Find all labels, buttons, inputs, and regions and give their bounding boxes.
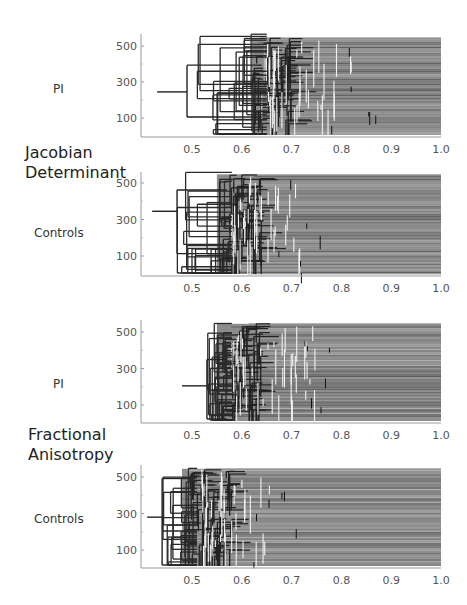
y-tick-label: 300 — [116, 363, 137, 376]
y-tick-label: 300 — [116, 214, 137, 227]
x-tick-label: 0.7 — [283, 574, 301, 587]
x-tick-label: 0.6 — [233, 282, 251, 295]
y-tick-label: 300 — [116, 76, 137, 89]
dendrogram-figure: 5003001000.50.60.70.80.91.05003001000.50… — [0, 0, 467, 605]
y-tick-label: 300 — [116, 508, 137, 521]
y-tick-label: 500 — [116, 471, 137, 484]
y-tick-label: 100 — [116, 399, 137, 412]
y-tick-label: 100 — [116, 250, 137, 263]
x-tick-label: 1.0 — [432, 282, 450, 295]
x-tick-label: 0.8 — [333, 282, 351, 295]
x-tick-label: 0.6 — [233, 429, 251, 442]
x-tick-label: 1.0 — [432, 429, 450, 442]
x-tick-label: 1.0 — [432, 574, 450, 587]
dendrogram-panel-0: 5003001000.50.60.70.80.91.0 — [116, 34, 450, 156]
x-tick-label: 1.0 — [432, 143, 450, 156]
x-tick-label: 0.7 — [283, 143, 301, 156]
x-tick-label: 0.9 — [382, 282, 400, 295]
x-tick-label: 0.7 — [283, 282, 301, 295]
x-tick-label: 0.5 — [183, 574, 201, 587]
dendrogram-panel-2: 5003001000.50.60.70.80.91.0 — [116, 320, 450, 442]
x-tick-label: 0.8 — [333, 429, 351, 442]
y-tick-label: 500 — [116, 326, 137, 339]
y-tick-label: 100 — [116, 544, 137, 557]
dendrogram-panel-1: 5003001000.50.60.70.80.91.0 — [116, 172, 450, 295]
y-tick-label: 500 — [116, 177, 137, 190]
x-tick-label: 0.9 — [382, 143, 400, 156]
y-tick-label: 100 — [116, 112, 137, 125]
x-tick-label: 0.7 — [283, 429, 301, 442]
x-tick-label: 0.6 — [233, 143, 251, 156]
x-tick-label: 0.9 — [382, 429, 400, 442]
x-tick-label: 0.6 — [233, 574, 251, 587]
x-tick-label: 0.8 — [333, 143, 351, 156]
x-tick-label: 0.8 — [333, 574, 351, 587]
x-tick-label: 0.5 — [183, 282, 201, 295]
y-tick-label: 500 — [116, 40, 137, 53]
x-tick-label: 0.5 — [183, 429, 201, 442]
x-tick-label: 0.5 — [183, 143, 201, 156]
dendrogram-panel-3: 5003001000.50.60.70.80.91.0 — [116, 465, 450, 587]
x-tick-label: 0.9 — [382, 574, 400, 587]
